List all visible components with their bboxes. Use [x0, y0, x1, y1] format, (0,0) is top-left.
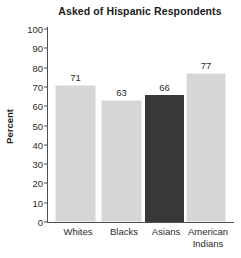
y-tick-mark-80	[44, 67, 47, 68]
bar-whites	[55, 85, 96, 222]
bar-value-blacks: 63	[116, 87, 127, 98]
bar-group-american-indians: 77	[186, 29, 226, 222]
chart-title: Asked of Hispanic Respondents	[40, 5, 240, 17]
bar-value-asians: 66	[159, 82, 170, 93]
y-tick-mark-30	[44, 164, 47, 165]
x-label-american-indians: American Indians	[178, 226, 238, 249]
bar-asians	[145, 95, 184, 222]
bar-blacks	[101, 100, 142, 222]
x-axis-line	[47, 222, 234, 223]
y-tick-label-90: 90	[32, 43, 43, 54]
y-tick-mark-20	[44, 183, 47, 184]
y-tick-mark-60	[44, 106, 47, 107]
y-tick-mark-90	[44, 48, 47, 49]
y-tick-label-80: 80	[32, 62, 43, 73]
plot-area: 100 90 80 70 60 50 40 30 20 10 0 71 63	[47, 29, 233, 222]
x-label-american-indians-line2: Indians	[178, 238, 238, 250]
bar-chart: Asked of Hispanic Respondents Percent 10…	[0, 0, 241, 258]
bar-value-american-indians: 77	[201, 60, 212, 71]
bar-group-asians: 66	[145, 29, 184, 222]
y-tick-label-100: 100	[27, 24, 43, 35]
y-tick-mark-70	[44, 86, 47, 87]
y-tick-label-0: 0	[38, 217, 43, 228]
y-tick-mark-100	[44, 29, 47, 30]
x-label-american-indians-line1: American	[178, 226, 238, 238]
y-axis-title: Percent	[4, 97, 15, 157]
bar-group-whites: 71	[55, 29, 96, 222]
bar-group-blacks: 63	[101, 29, 142, 222]
y-tick-label-10: 10	[32, 197, 43, 208]
y-tick-label-50: 50	[32, 120, 43, 131]
y-tick-mark-0	[44, 222, 47, 223]
bar-american-indians	[186, 73, 226, 222]
bar-value-whites: 71	[70, 72, 81, 83]
y-tick-mark-50	[44, 125, 47, 126]
y-tick-label-20: 20	[32, 178, 43, 189]
y-tick-mark-10	[44, 202, 47, 203]
y-tick-label-60: 60	[32, 101, 43, 112]
y-tick-label-70: 70	[32, 81, 43, 92]
y-tick-label-30: 30	[32, 159, 43, 170]
y-tick-label-40: 40	[32, 139, 43, 150]
y-tick-mark-40	[44, 144, 47, 145]
